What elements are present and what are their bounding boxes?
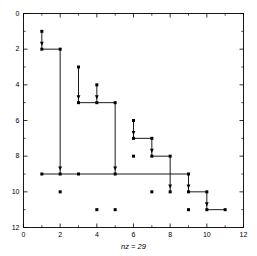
y-tick-label: 4: [2, 81, 20, 89]
y-tick-label: 2: [2, 45, 20, 53]
x-tick-label: 0: [22, 231, 26, 239]
y-tick-label: 6: [2, 117, 20, 125]
y-tick-label: 0: [2, 10, 20, 18]
x-axis-label: nz = 29: [121, 242, 146, 251]
spy-plot-figure: 024681012024681012 nz = 29: [0, 0, 257, 256]
y-tick-label: 10: [2, 188, 20, 196]
x-tick-label: 8: [168, 231, 172, 239]
y-tick-label: 8: [2, 152, 20, 160]
y-tick-label: 12: [2, 224, 20, 232]
x-tick-label: 2: [58, 231, 62, 239]
x-tick-label: 12: [240, 231, 248, 239]
plot-canvas: [0, 0, 257, 256]
x-tick-label: 4: [95, 231, 99, 239]
x-tick-label: 6: [132, 231, 136, 239]
x-tick-label: 10: [203, 231, 211, 239]
